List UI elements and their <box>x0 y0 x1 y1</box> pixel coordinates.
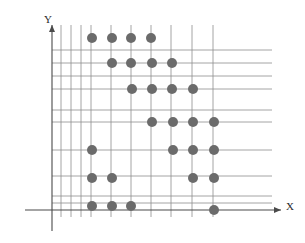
data-point <box>188 117 198 127</box>
data-point <box>107 33 117 43</box>
data-point <box>188 173 198 183</box>
data-point <box>126 201 136 211</box>
data-point <box>147 117 157 127</box>
data-point <box>87 201 97 211</box>
data-point <box>127 84 137 94</box>
data-point <box>146 33 156 43</box>
x-axis-label: X <box>286 201 294 212</box>
plot-canvas <box>0 0 305 243</box>
scatter-plot-figure: Y X <box>0 0 305 243</box>
data-point <box>188 84 198 94</box>
data-point <box>147 58 157 68</box>
data-point <box>168 145 178 155</box>
data-point <box>107 173 117 183</box>
data-point <box>87 145 97 155</box>
data-point <box>87 173 97 183</box>
data-point <box>188 145 198 155</box>
data-point <box>168 117 178 127</box>
data-point <box>209 205 219 215</box>
y-axis-arrow <box>49 25 55 32</box>
data-point <box>167 58 177 68</box>
data-point <box>126 33 136 43</box>
axis-lines <box>25 25 281 231</box>
data-point <box>209 117 219 127</box>
data-point <box>167 84 177 94</box>
x-axis-arrow <box>274 207 281 213</box>
data-point <box>126 58 136 68</box>
data-point <box>209 145 219 155</box>
data-point <box>107 58 117 68</box>
data-point <box>209 173 219 183</box>
data-point <box>147 84 157 94</box>
y-axis-label: Y <box>44 14 52 25</box>
grid-horizontal-lines <box>52 50 272 203</box>
data-point <box>87 33 97 43</box>
data-point <box>107 201 117 211</box>
data-points <box>87 33 219 215</box>
